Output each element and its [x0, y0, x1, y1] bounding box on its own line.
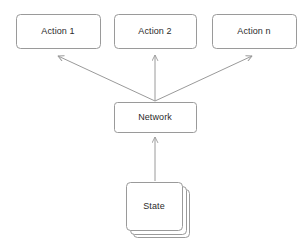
diagram-vector-layer: [0, 0, 308, 250]
node-box-action-1[interactable]: [17, 15, 101, 49]
edge-network-to-action-1: [58, 56, 155, 101]
node-box-network[interactable]: [115, 103, 197, 133]
node-box-action-2[interactable]: [115, 15, 197, 49]
node-box-state-layer-front[interactable]: [127, 183, 183, 231]
node-box-action-n[interactable]: [213, 15, 297, 49]
diagram-canvas: Action 1 Action 2 Action n Network State: [0, 0, 308, 250]
edge-network-to-action-n: [155, 56, 252, 101]
